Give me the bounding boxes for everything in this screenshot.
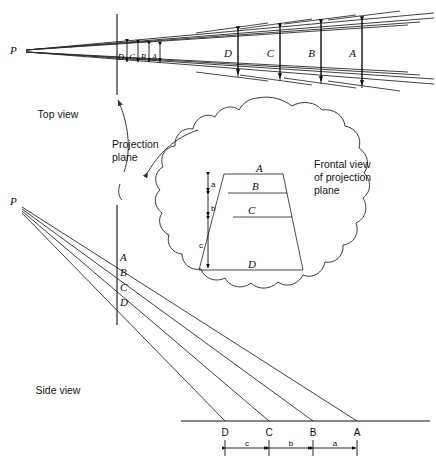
- top-view-plane-label-D: D: [117, 52, 125, 62]
- ground-point-label-C: C: [265, 427, 272, 438]
- top-view-dimension-label-D: D: [223, 47, 232, 59]
- ground-point-label-B: B: [310, 427, 317, 438]
- top-view-plane-label-B: B: [141, 52, 146, 62]
- ground-spacing-label-c: c: [245, 439, 249, 448]
- ground-point-label-D: D: [221, 427, 228, 438]
- side-view-intercept-label-C: C: [120, 281, 128, 293]
- side-view-intercept-label-B: B: [120, 266, 127, 278]
- frontal-view-caption-line1: Frontal view: [314, 158, 371, 170]
- frontal-view-band-label-A: A: [255, 162, 263, 174]
- frontal-view-height-label-a: a: [211, 180, 216, 189]
- top-view-station-point-label: P: [9, 44, 17, 56]
- frontal-view-band-label-B: B: [252, 180, 259, 192]
- side-view-intercept-label-A: A: [119, 251, 127, 263]
- frontal-view-caption-line3: plane: [314, 184, 340, 196]
- figure-root: D C B A D C B: [0, 0, 436, 464]
- top-view-dimension-label-A: A: [348, 47, 356, 59]
- projection-plane-caption-line2: plane: [112, 151, 138, 163]
- side-view-station-point-label: P: [9, 195, 17, 207]
- frontal-view-caption-line2: of projection: [314, 171, 371, 183]
- ground-point-label-A: A: [354, 427, 361, 438]
- frontal-view-height-label-b: b: [211, 204, 216, 213]
- top-view-plane-label-A: A: [151, 52, 158, 62]
- projection-plane-caption-line1: Projection: [112, 138, 159, 150]
- top-view-caption: Top view: [38, 108, 79, 120]
- perspective-projection-diagram: D C B A D C B: [0, 0, 436, 464]
- ground-spacing-label-a: a: [333, 439, 338, 448]
- frontal-view-band-label-D: D: [247, 258, 256, 270]
- top-view-dimension-label-B: B: [308, 47, 315, 59]
- top-view-dimension-label-C: C: [267, 47, 275, 59]
- ground-spacing-label-b: b: [289, 439, 294, 448]
- frontal-view-band-label-C: C: [248, 204, 256, 216]
- side-view-intercept-label-D: D: [119, 296, 128, 308]
- side-view-caption: Side view: [36, 384, 81, 396]
- frontal-view-height-label-c: c: [199, 241, 203, 250]
- top-view-plane-label-C: C: [129, 52, 135, 62]
